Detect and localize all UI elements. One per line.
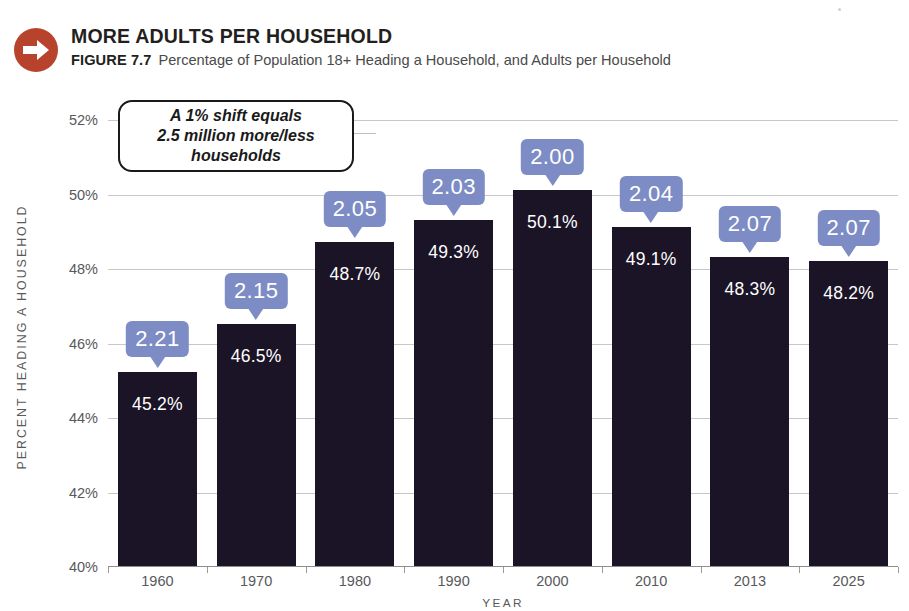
adults-per-household-bubble: 2.15 [225,273,287,309]
y-axis-title: PERCENT HEADING A HOUSEHOLD [15,157,29,517]
bar-value-label: 45.2% [118,394,197,415]
x-axis-tick [898,567,899,573]
y-axis-tick-label: 52% [54,112,98,128]
x-axis-tick-label: 2010 [635,573,667,589]
bubble-tail [841,245,857,257]
bar: 50.1% [513,190,592,566]
bar: 48.7% [315,242,394,566]
bar-value-label: 49.1% [612,249,691,270]
adults-per-household-bubble: 2.07 [719,206,781,242]
y-axis-tick-label: 44% [54,410,98,426]
bar: 48.3% [710,257,789,566]
bar-value-label: 49.3% [414,242,493,263]
annotation-connector [354,133,376,134]
figure-line: FIGURE 7.7Percentage of Population 18+ H… [71,51,891,70]
bubble-tail [149,356,165,368]
bar: 49.1% [612,227,691,566]
plot-area: 45.2%2.2146.5%2.1548.7%2.0549.3%2.0350.1… [108,120,898,567]
figure-number: FIGURE 7.7 [71,52,151,68]
bar: 46.5% [217,324,296,566]
adults-per-household-bubble: 2.00 [521,139,583,175]
y-axis: 40%42%44%46%48%50%52% [46,120,98,567]
page-title: MORE ADULTS PER HOUSEHOLD [71,24,891,48]
adults-per-household-bubble: 2.05 [324,191,386,227]
adults-per-household-bubble: 2.04 [620,176,682,212]
y-axis-tick-label: 42% [54,485,98,501]
bar: 49.3% [414,220,493,566]
bar-value-label: 50.1% [513,212,592,233]
bar-value-label: 48.3% [710,279,789,300]
x-axis-tick-label: 1970 [240,573,272,589]
bubble-tail [248,308,264,320]
bubble-label: 2.04 [620,176,682,212]
bar: 45.2% [118,372,197,566]
adults-per-household-bubble: 2.21 [126,321,188,357]
bubble-label: 2.21 [126,321,188,357]
bar-value-label: 46.5% [217,346,296,367]
bubble-label: 2.07 [817,210,879,246]
bubble-label: 2.15 [225,273,287,309]
annotation-text: A 1% shift equals 2.5 million more/less … [151,106,320,166]
y-axis-tick-label: 40% [54,559,98,575]
x-axis: 19601970198019902000201020132025 [108,573,898,595]
x-axis-tick-label: 2013 [734,573,766,589]
bar-value-label: 48.2% [809,283,888,304]
bubble-label: 2.03 [422,169,484,205]
x-axis-tick-label: 1990 [437,573,469,589]
bubble-tail [742,241,758,253]
gridline [108,195,898,196]
bubble-tail [446,204,462,216]
y-axis-tick-label: 48% [54,261,98,277]
bubble-tail [643,211,659,223]
bubble-tail [544,174,560,186]
bubble-tail [347,226,363,238]
annotation-callout: A 1% shift equals 2.5 million more/less … [118,100,354,172]
title-block: MORE ADULTS PER HOUSEHOLD FIGURE 7.7Perc… [71,24,891,70]
right-arrow-icon [14,28,58,72]
scan-artifact [838,8,841,11]
adults-per-household-bubble: 2.03 [422,169,484,205]
bar-value-label: 48.7% [315,264,394,285]
x-axis-title: YEAR [108,596,898,610]
x-axis-tick-label: 2000 [536,573,568,589]
bubble-label: 2.05 [324,191,386,227]
bubble-label: 2.00 [521,139,583,175]
chart-header: MORE ADULTS PER HOUSEHOLD FIGURE 7.7Perc… [14,24,894,86]
figure-caption: Percentage of Population 18+ Heading a H… [158,52,670,68]
x-axis-tick-label: 1980 [339,573,371,589]
bubble-label: 2.07 [719,206,781,242]
adults-per-household-bubble: 2.07 [817,210,879,246]
y-axis-tick-label: 46% [54,336,98,352]
y-axis-tick-label: 50% [54,187,98,203]
x-axis-tick-label: 2025 [832,573,864,589]
x-axis-tick-label: 1960 [141,573,173,589]
bar: 48.2% [809,261,888,567]
